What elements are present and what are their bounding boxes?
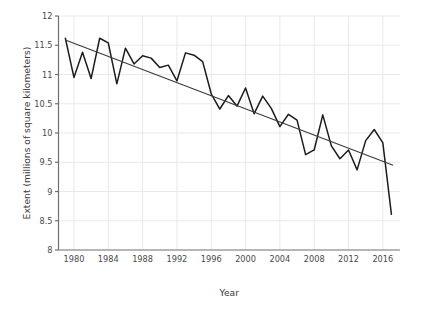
x-axis-tick-label: 2012	[338, 254, 359, 264]
x-axis-tick-label: 1980	[64, 254, 85, 264]
x-axis-tick-label: 2004	[269, 254, 290, 264]
x-axis-tick-label: 1988	[132, 254, 153, 264]
sea-ice-extent-chart: 88.599.51010.51111.512198019841988199219…	[0, 0, 425, 311]
y-axis-title: Extent (millions of square kilometers)	[21, 47, 32, 220]
y-axis-tick-label: 10	[42, 128, 52, 138]
y-axis-tick-label: 9	[47, 187, 52, 197]
x-axis-tick-label: 2016	[372, 254, 393, 264]
x-axis-title: Year	[219, 287, 240, 298]
data-line	[65, 38, 391, 214]
x-axis-tick-label: 1992	[166, 254, 187, 264]
x-axis-tick-label: 1984	[98, 254, 119, 264]
y-axis-tick-label: 11.5	[34, 40, 52, 50]
y-axis-tick-label: 9.5	[39, 157, 52, 167]
x-axis-tick-label: 2008	[304, 254, 325, 264]
y-axis-tick-label: 8	[47, 245, 52, 255]
chart-canvas: 88.599.51010.51111.512198019841988199219…	[0, 0, 425, 311]
y-axis-tick-label: 12	[42, 11, 52, 21]
x-axis-tick-label: 1996	[201, 254, 222, 264]
x-axis-tick-label: 2000	[235, 254, 256, 264]
y-axis-tick-label: 8.5	[39, 216, 52, 226]
y-axis-tick-label: 10.5	[34, 99, 52, 109]
y-axis-tick-label: 11	[42, 70, 52, 80]
trend-line	[65, 40, 393, 165]
